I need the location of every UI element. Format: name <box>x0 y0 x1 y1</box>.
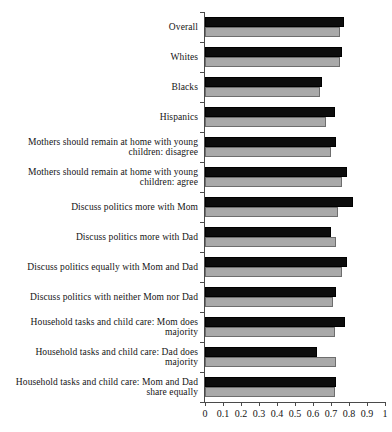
x-axis-tick <box>295 402 296 406</box>
x-axis-tick <box>331 402 332 406</box>
bar-series-b <box>205 297 333 307</box>
y-axis-tick <box>200 12 205 13</box>
x-axis-tick <box>241 402 242 406</box>
x-axis-tick-label: 0 <box>203 408 208 420</box>
chart-category-row: Whites <box>0 42 392 72</box>
y-axis-tick <box>200 192 205 193</box>
x-axis-tick <box>349 402 350 406</box>
y-axis-tick <box>200 72 205 73</box>
x-axis-tick <box>385 402 386 406</box>
category-label: Mothers should remain at home with young… <box>8 137 198 158</box>
chart-category-row: Overall <box>0 12 392 42</box>
category-label: Household tasks and child care: Mom does… <box>8 317 198 338</box>
chart-category-row: Blacks <box>0 72 392 102</box>
bar-series-b <box>205 147 331 157</box>
chart-rows: OverallWhitesBlacksHispanicsMothers shou… <box>0 0 392 390</box>
bar-series-a <box>205 17 344 27</box>
y-axis-tick <box>200 312 205 313</box>
bar-series-b <box>205 237 336 247</box>
y-axis-tick <box>200 132 205 133</box>
bar-series-b <box>205 327 335 337</box>
x-axis-tick <box>313 402 314 406</box>
chart-category-row: Mothers should remain at home with young… <box>0 162 392 192</box>
bar-series-b <box>205 357 336 367</box>
bar-series-b <box>205 117 326 127</box>
y-axis-tick <box>200 342 205 343</box>
bar-series-a <box>205 347 317 357</box>
x-axis-tick-label: 0.4 <box>271 408 284 420</box>
x-axis-tick <box>205 402 206 406</box>
x-axis-tick <box>259 402 260 406</box>
chart-category-row: Household tasks and child care: Mom does… <box>0 312 392 342</box>
bar-series-b <box>205 27 340 37</box>
category-label: Discuss politics equally with Mom and Da… <box>8 262 198 273</box>
category-label: Mothers should remain at home with young… <box>8 167 198 188</box>
category-label: Overall <box>8 22 198 33</box>
bar-series-b <box>205 267 342 277</box>
y-axis-tick <box>200 42 205 43</box>
x-axis-tick-label: 1 <box>383 408 388 420</box>
y-axis-tick <box>200 162 205 163</box>
bar-series-b <box>205 87 320 97</box>
bar-series-a <box>205 47 342 57</box>
chart-category-row: Hispanics <box>0 102 392 132</box>
x-axis-tick-label: 0.3 <box>253 408 266 420</box>
x-axis-tick-label: 0.8 <box>343 408 356 420</box>
y-axis-tick <box>200 402 205 403</box>
y-axis-tick <box>200 252 205 253</box>
y-axis-tick <box>200 222 205 223</box>
bar-series-a <box>205 287 336 297</box>
bar-series-b <box>205 207 338 217</box>
bar-series-a <box>205 227 331 237</box>
bar-series-a <box>205 197 353 207</box>
bar-series-a <box>205 77 322 87</box>
y-axis-tick <box>200 102 205 103</box>
x-axis-tick-label: 0.5 <box>289 408 302 420</box>
x-axis-tick-label: 0.7 <box>325 408 338 420</box>
chart-category-row: Discuss politics equally with Mom and Da… <box>0 252 392 282</box>
x-axis-tick <box>367 402 368 406</box>
chart-category-row: Household tasks and child care: Mom and … <box>0 372 392 402</box>
chart-category-row: Discuss politics with neither Mom nor Da… <box>0 282 392 312</box>
x-axis-tick-label: 0.6 <box>307 408 320 420</box>
bar-series-a <box>205 107 335 117</box>
bar-series-a <box>205 377 336 387</box>
bar-series-a <box>205 167 347 177</box>
chart-category-row: Discuss politics more with Mom <box>0 192 392 222</box>
bar-chart: OverallWhitesBlacksHispanicsMothers shou… <box>0 0 392 432</box>
category-label: Household tasks and child care: Dad does… <box>8 347 198 368</box>
chart-category-row: Household tasks and child care: Dad does… <box>0 342 392 372</box>
chart-category-row: Discuss politics more with Dad <box>0 222 392 252</box>
category-label: Blacks <box>8 82 198 93</box>
category-label: Hispanics <box>8 112 198 123</box>
x-axis-tick-label: 0.9 <box>361 408 374 420</box>
bar-series-b <box>205 57 340 67</box>
x-axis-tick-label: 0.2 <box>235 408 248 420</box>
y-axis-tick <box>200 282 205 283</box>
category-label: Whites <box>8 52 198 63</box>
bar-series-a <box>205 137 336 147</box>
category-label: Household tasks and child care: Mom and … <box>8 377 198 398</box>
y-axis-tick <box>200 372 205 373</box>
category-label: Discuss politics with neither Mom nor Da… <box>8 292 198 303</box>
x-axis-tick <box>223 402 224 406</box>
bar-series-a <box>205 257 347 267</box>
bar-series-a <box>205 317 345 327</box>
category-label: Discuss politics more with Mom <box>8 202 198 213</box>
category-label: Discuss politics more with Dad <box>8 232 198 243</box>
x-axis-ticks: 00.10.20.30.40.50.60.70.80.91 <box>0 402 392 432</box>
x-axis-tick <box>277 402 278 406</box>
x-axis-tick-label: 0.1 <box>217 408 230 420</box>
bar-series-b <box>205 387 335 397</box>
chart-category-row: Mothers should remain at home with young… <box>0 132 392 162</box>
bar-series-b <box>205 177 342 187</box>
